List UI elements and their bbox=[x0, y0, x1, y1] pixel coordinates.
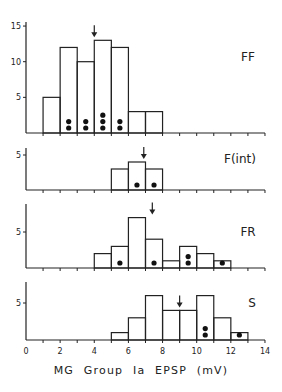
histogram-bar bbox=[180, 310, 197, 340]
panel-fint: 5F(int) bbox=[16, 147, 265, 193]
y-tick-label: 5 bbox=[16, 228, 21, 237]
x-tick-label: 2 bbox=[58, 347, 63, 356]
x-tick-label: 6 bbox=[126, 347, 131, 356]
data-dot bbox=[151, 260, 156, 265]
x-tick-label: 0 bbox=[23, 347, 28, 356]
x-tick-label: 10 bbox=[192, 347, 202, 356]
histogram-bar bbox=[145, 296, 162, 340]
panel-label: F(int) bbox=[224, 152, 256, 166]
mean-arrow-icon bbox=[149, 203, 155, 215]
histogram-bar bbox=[145, 112, 162, 133]
x-tick-label: 14 bbox=[260, 347, 270, 356]
data-dot bbox=[203, 326, 208, 331]
histogram-bar bbox=[128, 318, 145, 340]
histogram-figure: 51015FF5F(int)5FR5S02468101214 bbox=[0, 0, 282, 392]
y-tick-label: 5 bbox=[16, 151, 21, 160]
data-dot bbox=[203, 332, 208, 337]
histogram-bar bbox=[111, 333, 128, 340]
data-dot bbox=[117, 260, 122, 265]
data-dot bbox=[186, 254, 191, 259]
data-dot bbox=[237, 332, 242, 337]
y-tick-label: 5 bbox=[16, 299, 21, 308]
y-tick-label: 10 bbox=[11, 58, 21, 67]
data-dot bbox=[117, 119, 122, 124]
panel-label: FR bbox=[240, 225, 255, 239]
histogram-bar bbox=[163, 261, 180, 268]
x-axis-label: MG Group Ia EPSP (mV) bbox=[0, 364, 282, 377]
panel-label: FF bbox=[241, 50, 255, 64]
histogram-bar bbox=[214, 318, 231, 340]
histogram-bar bbox=[94, 254, 111, 268]
panel-label: S bbox=[248, 296, 256, 310]
x-tick-label: 4 bbox=[92, 347, 97, 356]
histogram-bar bbox=[163, 310, 180, 340]
histogram-bar bbox=[128, 112, 145, 133]
x-tick-label: 12 bbox=[226, 347, 236, 356]
panel-s: 5S bbox=[16, 282, 265, 343]
y-tick-label: 5 bbox=[16, 93, 21, 102]
y-tick-label: 15 bbox=[11, 22, 21, 31]
histogram-bar bbox=[197, 254, 214, 268]
data-dot bbox=[100, 125, 105, 130]
data-dot bbox=[66, 125, 71, 130]
histogram-bar bbox=[128, 218, 145, 268]
data-dot bbox=[83, 119, 88, 124]
mean-arrow-icon bbox=[141, 147, 147, 159]
data-dot bbox=[117, 125, 122, 130]
histogram-bar bbox=[111, 169, 128, 190]
mean-arrow-icon bbox=[177, 295, 183, 307]
x-tick-label: 8 bbox=[160, 347, 165, 356]
data-dot bbox=[220, 260, 225, 265]
panel-fr: 5FR bbox=[16, 203, 265, 271]
data-dot bbox=[151, 182, 156, 187]
mean-arrow-icon bbox=[91, 25, 97, 37]
data-dot bbox=[186, 260, 191, 265]
data-dot bbox=[83, 125, 88, 130]
data-dot bbox=[100, 119, 105, 124]
panel-ff: 51015FF bbox=[11, 22, 265, 136]
data-dot bbox=[134, 182, 139, 187]
histogram-bar bbox=[43, 97, 60, 133]
data-dot bbox=[66, 119, 71, 124]
data-dot bbox=[100, 113, 105, 118]
